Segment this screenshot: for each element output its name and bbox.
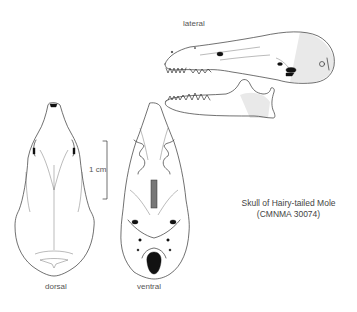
caption-title: Skull of Hairy-tailed Mole — [226, 198, 351, 209]
figure-caption: Skull of Hairy-tailed Mole (CMNMA 30074) — [226, 198, 351, 220]
ventral-skull-drawing — [0, 0, 357, 312]
ventral-view-label: ventral — [137, 282, 161, 291]
caption-specimen-id: (CMNMA 30074) — [226, 209, 351, 220]
